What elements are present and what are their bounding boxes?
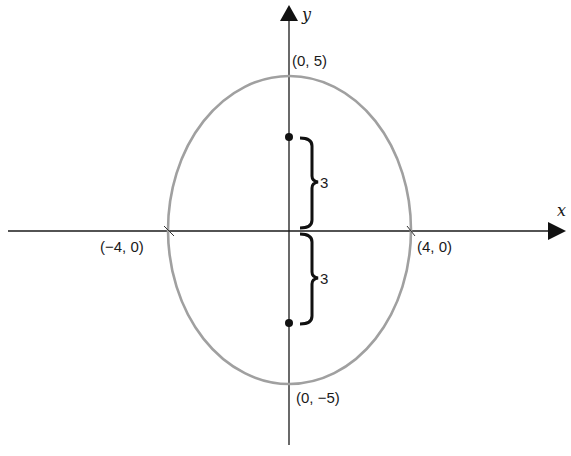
x-axis-arrow-icon <box>548 222 566 240</box>
ellipse-diagram: x y 3 3 (0, 5) (0, −5) (−4, 0) (4, 0) <box>0 0 571 456</box>
y-axis-label: y <box>301 5 312 24</box>
lower-brace-icon <box>300 234 318 324</box>
x-axis-label: x <box>557 201 566 220</box>
vertex-right-label: (4, 0) <box>417 238 452 255</box>
lower-distance-label: 3 <box>320 270 328 287</box>
vertex-top-label: (0, 5) <box>292 52 327 69</box>
upper-brace-icon <box>300 138 318 228</box>
vertex-bottom-label: (0, −5) <box>296 389 340 406</box>
vertex-left-label: (−4, 0) <box>100 238 144 255</box>
y-axis-arrow-icon <box>280 5 298 21</box>
upper-distance-label: 3 <box>320 174 328 191</box>
focus-lower <box>285 319 293 327</box>
focus-upper <box>285 133 293 141</box>
